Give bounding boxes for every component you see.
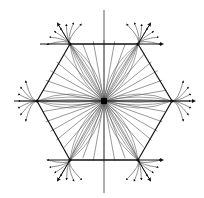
center-node — [101, 98, 107, 104]
phase-portrait-diagram — [0, 0, 204, 198]
vector-field-svg — [0, 0, 204, 198]
